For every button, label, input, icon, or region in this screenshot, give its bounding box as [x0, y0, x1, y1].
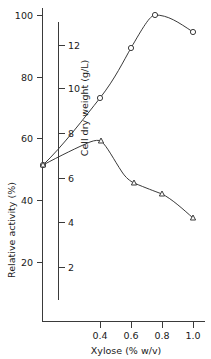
- inner-axis-title: Cell dry weight (g/L): [79, 60, 90, 156]
- series-relative-activity-line: [43, 140, 193, 218]
- inner-axis-tick-label-4: 4: [68, 217, 74, 228]
- data-point-marker: [131, 180, 136, 185]
- x-axis-tick-label-1-0: 1.0: [185, 330, 200, 341]
- data-point-marker: [98, 138, 103, 143]
- series-relative-activity: [40, 138, 195, 220]
- left-axis-tick-label-20: 20: [21, 257, 33, 268]
- left-axis-tick-label-100: 100: [15, 10, 33, 21]
- chart-figure: 100 80 60 40 20 Relative activity (%) 12…: [0, 0, 211, 359]
- data-point-marker: [152, 12, 157, 17]
- series-cell-dry-weight: [40, 12, 195, 167]
- data-point-marker: [128, 45, 133, 50]
- left-axis-tick-label-40: 40: [21, 195, 33, 206]
- x-axis: 0.4 0.6 0.8 1.0 Xylose (% w/v): [43, 322, 206, 357]
- x-axis-tick-label-0-6: 0.6: [123, 330, 138, 341]
- data-point-marker: [190, 29, 195, 34]
- inner-axis-tick-label-6: 6: [68, 173, 74, 184]
- left-axis-tick-label-60: 60: [21, 133, 33, 144]
- inner-axis-tick-label-12: 12: [68, 40, 80, 51]
- chart-plot-area: 100 80 60 40 20 Relative activity (%) 12…: [0, 0, 211, 359]
- inner-axis-tick-label-2: 2: [68, 262, 74, 273]
- series-cell-dry-weight-line: [43, 15, 193, 165]
- x-axis-tick-label-0-8: 0.8: [154, 330, 169, 341]
- data-point-marker: [159, 191, 164, 196]
- left-axis-title: Relative activity (%): [6, 182, 17, 278]
- inner-axis: 12 10 8 6 4 2 Cell dry weight (g/L): [59, 22, 91, 300]
- data-point-marker: [97, 95, 102, 100]
- left-axis-tick-label-80: 80: [21, 72, 33, 83]
- left-axis: 100 80 60 40 20 Relative activity (%): [6, 8, 43, 322]
- x-axis-title: Xylose (% w/v): [91, 345, 161, 356]
- x-axis-tick-label-0-4: 0.4: [92, 330, 107, 341]
